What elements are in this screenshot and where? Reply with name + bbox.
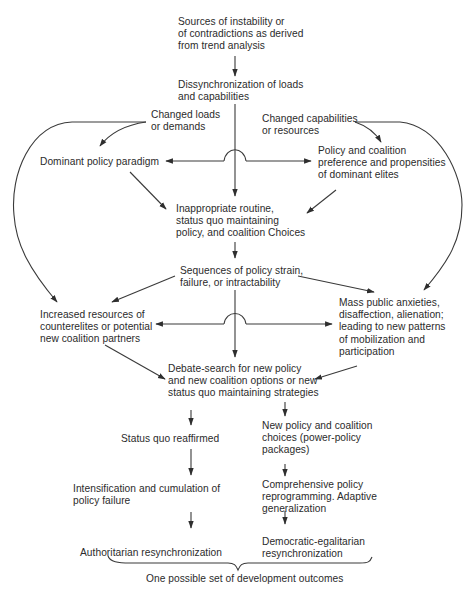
node-status-quo: Status quo reaffirmed bbox=[121, 433, 219, 445]
node-sources: Sources of instability or of contradicti… bbox=[178, 16, 303, 53]
edge-changed-loads-to-dominant bbox=[100, 122, 146, 146]
node-changed-loads: Changed loads or demands bbox=[151, 109, 220, 133]
node-changed-capabilities: Changed capabilities or resources bbox=[262, 113, 358, 137]
node-inappropriate-routine: Inappropriate routine, status quo mainta… bbox=[176, 203, 305, 240]
edge-changed-cap-to-policy-pref bbox=[355, 122, 381, 142]
node-new-policy: New policy and coalition choices (power-… bbox=[262, 420, 373, 457]
node-dissynchronization: Dissynchronization of loads and capabili… bbox=[178, 79, 303, 103]
flowchart-diagram: Sources of instability or of contradicti… bbox=[0, 0, 464, 592]
node-mass-public: Mass public anxieties, disaffection, ali… bbox=[339, 297, 446, 358]
node-debate-search: Debate-search for new policy and new coa… bbox=[168, 363, 319, 400]
outcomes-label: One possible set of development outcomes bbox=[146, 573, 343, 585]
edge-changed-loads-to-increased bbox=[13, 122, 146, 302]
node-policy-coalition-preference: Policy and coalition preference and prop… bbox=[318, 145, 446, 182]
node-democratic: Democratic-egalitarian resynchronization bbox=[262, 536, 365, 560]
node-comprehensive: Comprehensive policy reprogramming. Adap… bbox=[262, 479, 377, 516]
node-increased-resources: Increased resources of counterelites or … bbox=[40, 309, 152, 346]
edge-strain-to-increased bbox=[112, 276, 175, 302]
edge-policy-pref-to-inappropriate bbox=[307, 190, 336, 213]
edge-dominant-to-inappropriate bbox=[130, 172, 166, 209]
node-dominant-paradigm: Dominant policy paradigm bbox=[40, 156, 159, 168]
edge-mass-public-to-debate bbox=[315, 366, 357, 379]
node-authoritarian: Authoritarian resynchronization bbox=[80, 547, 222, 559]
node-policy-strain: Sequences of policy strain, failure, or … bbox=[180, 265, 303, 289]
edge-increased-to-debate bbox=[105, 345, 165, 379]
edge-strain-to-mass-public bbox=[298, 276, 374, 292]
node-intensification: Intensification and cumulation of policy… bbox=[73, 483, 220, 507]
